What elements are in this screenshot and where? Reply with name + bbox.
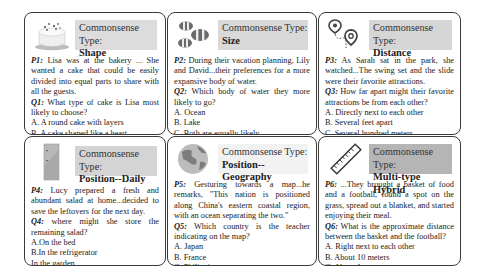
option-c: C. Philippines (174, 263, 310, 266)
refrigerator-icon (33, 142, 71, 182)
question-tag: Q2: (174, 87, 187, 96)
passage-tag: P2: (174, 56, 186, 65)
panel-distance: Commonsense Type: Distance P3: As Sarah … (318, 12, 461, 135)
question-text: What type of cake is Lisa most likely to… (31, 98, 159, 117)
type-label-prefix: Commonsense Type: (222, 146, 308, 159)
passage-text: Gesturing towards a map...he remarks, "T… (174, 180, 310, 220)
type-label: Commonsense Type: Multi-type Hybrid (369, 144, 452, 174)
panel-size: Commonsense Type: Size P2: During their … (167, 12, 317, 135)
passage-tag: P3: (325, 56, 337, 65)
option-a: A. Right next to each other (325, 242, 454, 252)
panel-body: P2: During their vacation planning, Lily… (174, 56, 310, 135)
type-label-prefix: Commonsense Type: (79, 148, 157, 173)
globe-icon (176, 142, 214, 176)
map-pin-route-icon (327, 18, 365, 52)
panel-multi-type-hybrid: Commonsense Type: Multi-type Hybrid P6: … (318, 136, 461, 266)
option-a: A. Japan (174, 242, 310, 252)
type-label: Commonsense Type: Position--Daily (75, 146, 157, 176)
option-b: B.In the refrigerator (31, 248, 159, 258)
type-label-prefix: Commonsense Type: (222, 22, 308, 35)
question-tag: Q5: (174, 222, 187, 231)
option-b: B. A cake shaped like a heart (31, 129, 159, 135)
type-name: Distance (373, 47, 452, 60)
panel-body: P3: As Sarah sat in the park, she watche… (325, 56, 454, 135)
panel-body: P1: Lisa was at the bakery ... She wante… (31, 56, 159, 135)
panel-shape: Commonsense Type: Shape P1: Lisa was at … (24, 12, 166, 135)
type-label-prefix: Commonsense Type: (373, 146, 452, 171)
type-label: Commonsense Type: Position--Geography (218, 144, 308, 174)
question-tag: Q1: (31, 98, 44, 107)
cake-icon (33, 18, 71, 52)
question-tag: Q3: (325, 87, 338, 96)
question-tag: Q6: (325, 222, 338, 231)
type-name: Size (222, 35, 308, 48)
option-c: C. Both are equally likely (174, 129, 310, 135)
option-a: A. Directly next to each other (325, 108, 454, 118)
passage-tag: P6: (325, 180, 337, 189)
passage-tag: P1: (31, 56, 43, 65)
commonsense-types-figure: Commonsense Type: Shape P1: Lisa was at … (24, 12, 461, 266)
type-label-prefix: Commonsense Type: (79, 22, 157, 47)
type-name: Position--Daily (79, 173, 157, 186)
fish-icon (176, 18, 214, 52)
passage-text: As Sarah sat in the park, she watched...… (325, 56, 454, 86)
panel-position-daily: Commonsense Type: Position--Daily P4: Lu… (24, 136, 166, 266)
option-c: C. About 1 meters (325, 263, 454, 266)
option-b: B. About 10 meters (325, 253, 454, 263)
passage-tag: P5: (174, 180, 186, 189)
option-a: A. A round cake with layers (31, 118, 159, 128)
question-text: What is the approximate distance between… (325, 222, 454, 241)
panel-position-geography: Commonsense Type: Position--Geography P5… (167, 136, 317, 266)
option-a: A.On the bed (31, 238, 159, 248)
question-text: How far apart might their favorite attra… (325, 87, 454, 106)
passage-text: During their vacation planning, Lily and… (174, 56, 310, 86)
option-b: B. Lake (174, 118, 310, 128)
type-label: Commonsense Type: Distance (369, 20, 452, 50)
type-name: Multi-type Hybrid (373, 171, 452, 196)
type-label-prefix: Commonsense Type: (373, 22, 452, 47)
passage-text: Lucy prepared a fresh and abundant salad… (31, 186, 159, 216)
option-b: B. Several feet apart (325, 118, 454, 128)
question-tag: Q4: (31, 217, 44, 226)
type-label: Commonsense Type: Size (218, 20, 308, 50)
option-b: B. France (174, 253, 310, 263)
question-text: Which country is the teacher indicating … (174, 222, 310, 241)
option-a: A. Ocean (174, 108, 310, 118)
passage-tag: P4: (31, 186, 43, 195)
ruler-icon (327, 142, 365, 176)
type-name: Position--Geography (222, 159, 308, 184)
panel-body: P4: Lucy prepared a fresh and abundant s… (31, 186, 159, 266)
type-name: Shape (79, 47, 157, 60)
question-text: where might she store the remaining sala… (31, 217, 159, 236)
passage-text: Lisa was at the bakery ... She wanted a … (31, 56, 159, 96)
option-c: C. Several hundred meters (325, 129, 454, 135)
panel-body: P5: Gesturing towards a map...he remarks… (174, 180, 310, 266)
question-text: Which body of water they more likely to … (174, 87, 310, 106)
type-label: Commonsense Type: Shape (75, 20, 157, 50)
option-c: In the garden (31, 259, 159, 266)
